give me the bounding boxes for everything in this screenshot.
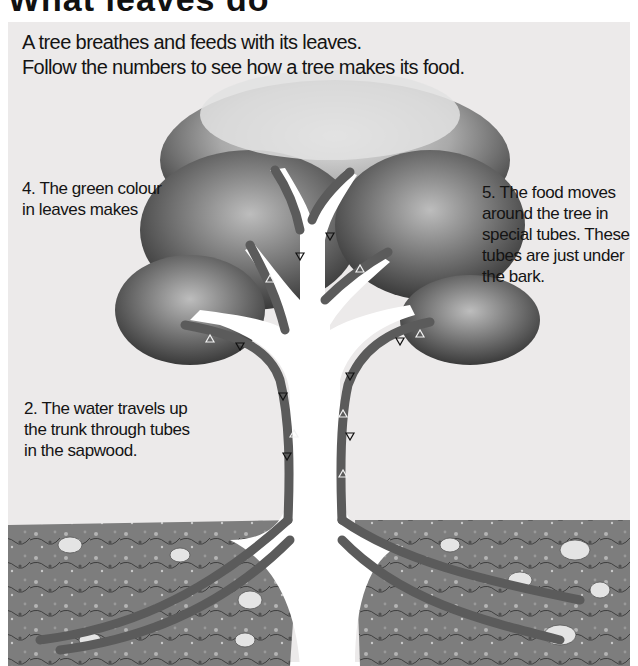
tree-illustration [0,0,638,666]
caption-step-3: 4. The green colour in leaves makes [22,178,162,220]
caption-line: the bark. [482,266,630,287]
caption-line: the trunk through tubes [24,419,190,440]
caption-line: tubes are just under [482,245,630,266]
caption-line: in the sapwood. [24,440,190,461]
caption-step-2: 2. The water travels up the trunk throug… [24,398,190,461]
caption-line: in leaves makes [22,199,162,220]
caption-line: special tubes. These [482,224,630,245]
caption-line: 5. The food moves [482,182,630,203]
caption-line: around the tree in [482,203,630,224]
intro-line-1: A tree breathes and feeds with its leave… [22,30,464,55]
intro-text: A tree breathes and feeds with its leave… [22,30,464,80]
caption-line: 2. The water travels up [24,398,190,419]
caption-step-4: 5. The food moves around the tree in spe… [482,182,630,287]
intro-line-2: Follow the numbers to see how a tree mak… [22,55,464,80]
caption-line: 4. The green colour [22,178,162,199]
